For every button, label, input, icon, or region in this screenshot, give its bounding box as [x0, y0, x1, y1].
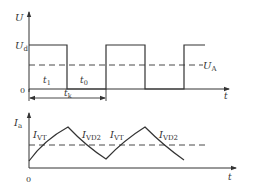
voltage-plot: U t 0 Ud UA t1 t0 tk — [15, 12, 229, 101]
supply-voltage-label: Ud — [15, 40, 28, 53]
time-axis-label-top: t — [224, 91, 228, 101]
diode-current-label-2: IVD2 — [158, 129, 178, 142]
voltage-pulse-waveform — [29, 45, 205, 89]
average-voltage-label: UA — [203, 60, 217, 73]
voltage-axis-label: U — [15, 12, 24, 23]
time-axis-label-bottom: t — [228, 172, 232, 182]
chopper-waveform-diagram: U t 0 Ud UA t1 t0 tk Ia t 0 IVT IVD2 IVT… — [0, 0, 253, 193]
origin-label-top: 0 — [20, 86, 25, 95]
origin-label-bottom: 0 — [26, 175, 31, 184]
transistor-current-label-2: IVT — [109, 129, 124, 142]
current-plot: Ia t 0 IVT IVD2 IVT IVD2 — [13, 113, 236, 184]
on-time-label: t1 — [43, 75, 51, 87]
off-time-label: t0 — [80, 75, 88, 87]
transistor-current-label-1: IVT — [32, 129, 47, 142]
current-axis-label: Ia — [13, 117, 22, 130]
diode-current-label-1: IVD2 — [81, 129, 101, 142]
